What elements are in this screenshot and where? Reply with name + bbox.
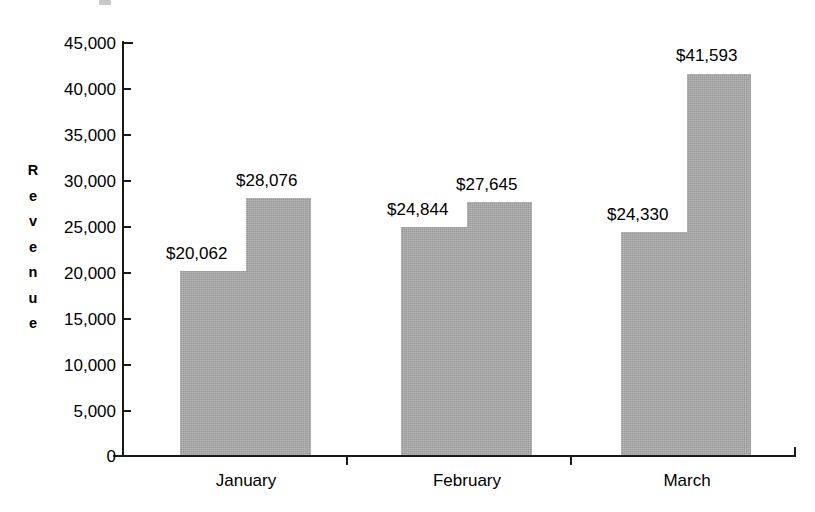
y-tick-mark [122, 410, 131, 412]
y-tick-label: 45,000 [30, 35, 116, 52]
y-axis-line [122, 41, 124, 457]
y-tick-mark [122, 272, 131, 274]
bar-february-series1 [401, 227, 467, 455]
y-tick-label: 15,000 [30, 311, 116, 328]
x-axis-line [122, 455, 796, 457]
bar-march-series1 [621, 232, 687, 455]
data-label-january-series1: $20,062 [166, 245, 227, 262]
y-axis-tick-labels: 45,000 40,000 35,000 30,000 25,000 20,00… [30, 0, 116, 512]
data-label-march-series2: $41,593 [676, 47, 737, 64]
x-category-label-march: March [621, 472, 753, 489]
x-category-label-february: February [401, 472, 533, 489]
y-tick-label: 30,000 [30, 173, 116, 190]
y-tick-label: 40,000 [30, 81, 116, 98]
data-label-january-series2: $28,076 [236, 172, 297, 189]
bar-february-series2 [467, 202, 532, 455]
y-tick-label: 10,000 [30, 357, 116, 374]
y-tick-mark [122, 318, 131, 320]
bar-january-series2 [246, 198, 311, 455]
y-tick-mark [122, 180, 131, 182]
x-tick-mark [570, 455, 572, 465]
bar-january-series1 [180, 271, 246, 455]
y-tick-mark [122, 364, 131, 366]
x-tick-mark-end [794, 447, 796, 457]
y-tick-label: 35,000 [30, 127, 116, 144]
y-tick-mark [122, 42, 133, 44]
data-label-march-series1: $24,330 [607, 206, 668, 223]
bar-march-series2 [687, 74, 751, 455]
y-tick-label: 25,000 [30, 219, 116, 236]
x-tick-mark [346, 455, 348, 465]
y-tick-mark [122, 134, 131, 136]
data-label-february-series1: $24,844 [387, 201, 448, 218]
y-tick-mark [122, 226, 131, 228]
y-tick-label: 20,000 [30, 265, 116, 282]
bar-chart: R e v e n u e 45,000 40,000 35,000 30,00… [0, 0, 815, 512]
x-category-label-january: January [180, 472, 312, 489]
y-tick-label: 0 [30, 448, 116, 465]
data-label-february-series2: $27,645 [456, 176, 517, 193]
y-tick-mark [122, 88, 131, 90]
y-tick-mark-zero [113, 455, 131, 457]
y-tick-label: 5,000 [30, 403, 116, 420]
